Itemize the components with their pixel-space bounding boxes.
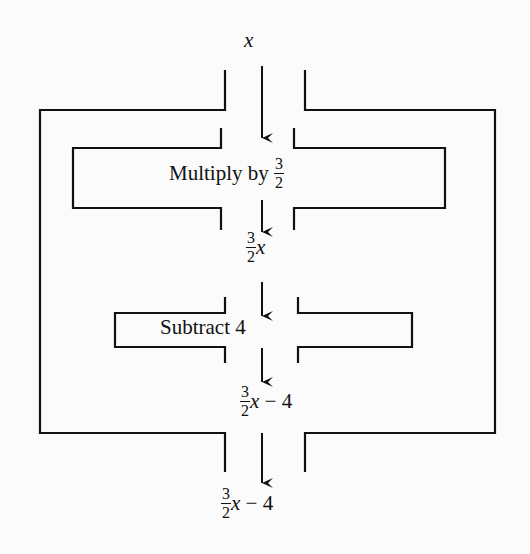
subtract-box-right xyxy=(298,297,412,363)
function-machine-diagram xyxy=(0,0,530,554)
outer-machine-outline-left xyxy=(40,70,225,472)
fraction-numerator: 3 xyxy=(240,384,250,400)
final-output: 3 2 x − 4 xyxy=(221,488,273,523)
input-variable: x xyxy=(244,28,253,52)
fraction-denominator: 2 xyxy=(240,403,250,419)
final-output-variable: x xyxy=(231,491,240,515)
intermediate-output-1: 3 2 x xyxy=(246,232,265,267)
multiply-fraction: 3 2 xyxy=(274,156,284,191)
multiply-box-right xyxy=(294,128,445,230)
input-label: x xyxy=(244,30,253,51)
fraction-denominator: 2 xyxy=(221,505,231,521)
multiply-step-text: Multiply by xyxy=(169,161,269,185)
subtract-step-text: Subtract 4 xyxy=(160,315,246,339)
multiply-step-label: Multiply by 3 2 xyxy=(169,158,284,193)
fraction-numerator: 3 xyxy=(246,230,256,246)
fraction-denominator: 2 xyxy=(274,175,284,191)
fraction-denominator: 2 xyxy=(246,249,256,265)
output-2-fraction: 3 2 xyxy=(240,384,250,419)
output-2-variable: x xyxy=(250,389,259,413)
final-output-suffix: − 4 xyxy=(240,491,273,515)
fraction-numerator: 3 xyxy=(274,156,284,172)
outer-machine-outline-right xyxy=(305,70,495,472)
subtract-step-label: Subtract 4 xyxy=(160,317,246,338)
final-output-fraction: 3 2 xyxy=(221,486,231,521)
output-2-suffix: − 4 xyxy=(259,389,292,413)
output-1-fraction: 3 2 xyxy=(246,230,256,265)
intermediate-output-2: 3 2 x − 4 xyxy=(240,386,292,421)
output-1-variable: x xyxy=(256,235,265,259)
fraction-numerator: 3 xyxy=(221,486,231,502)
